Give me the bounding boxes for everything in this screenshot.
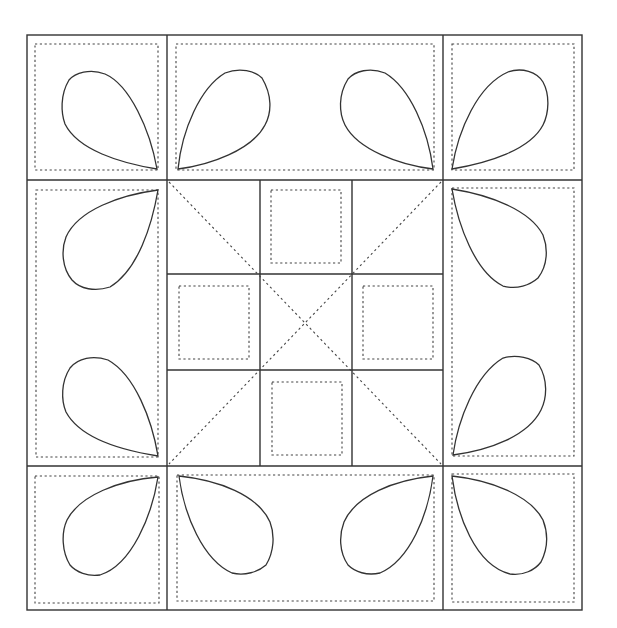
- stitch-center-bottom: [272, 382, 342, 455]
- petal-shape: [453, 356, 546, 455]
- center-diagonals: [169, 182, 441, 464]
- petal-shape: [452, 70, 548, 169]
- petal-shape: [452, 476, 547, 574]
- quilt-diagram: [0, 0, 617, 628]
- stitch-center-right: [363, 286, 433, 359]
- petal-shape: [341, 476, 433, 574]
- petal-shape: [179, 476, 273, 574]
- stitch-center-top: [271, 190, 341, 263]
- petal-shape: [62, 71, 157, 169]
- petal-shape: [452, 189, 546, 287]
- stitch-center-left: [179, 286, 249, 359]
- petal-shape: [340, 70, 433, 169]
- petals: [62, 70, 548, 575]
- petal-shape: [63, 477, 158, 575]
- petal-shape: [178, 70, 270, 169]
- petal-shape: [63, 358, 158, 456]
- petal-shape: [63, 190, 158, 289]
